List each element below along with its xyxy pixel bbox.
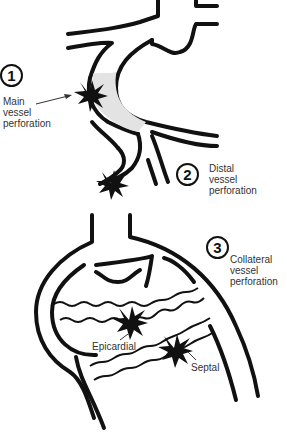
label-line: vessel	[230, 265, 278, 276]
label-epicardial: Epicardial	[92, 341, 136, 352]
label-main-vessel-perforation: Main vessel perforation	[3, 96, 51, 129]
label-distal-vessel-perforation: Distal vessel perforation	[209, 163, 257, 196]
marker-1: 1	[0, 64, 23, 87]
label-line: vessel	[3, 107, 51, 118]
marker-2-number: 2	[183, 166, 191, 183]
marker-3: 3	[206, 236, 229, 259]
label-line: perforation	[3, 118, 51, 129]
label-septal: Septal	[191, 362, 219, 373]
diagram-drawing	[0, 0, 287, 436]
label-line: vessel	[209, 174, 257, 185]
marker-3-number: 3	[213, 239, 221, 256]
marker-2: 2	[176, 163, 199, 186]
label-line: Distal	[209, 163, 257, 174]
label-line: Main	[3, 96, 51, 107]
marker-1-number: 1	[7, 67, 15, 84]
label-collateral-vessel-perforation: Collateral vessel perforation	[230, 254, 278, 287]
label-line: perforation	[230, 276, 278, 287]
label-line: perforation	[209, 185, 257, 196]
label-line: Collateral	[230, 254, 278, 265]
